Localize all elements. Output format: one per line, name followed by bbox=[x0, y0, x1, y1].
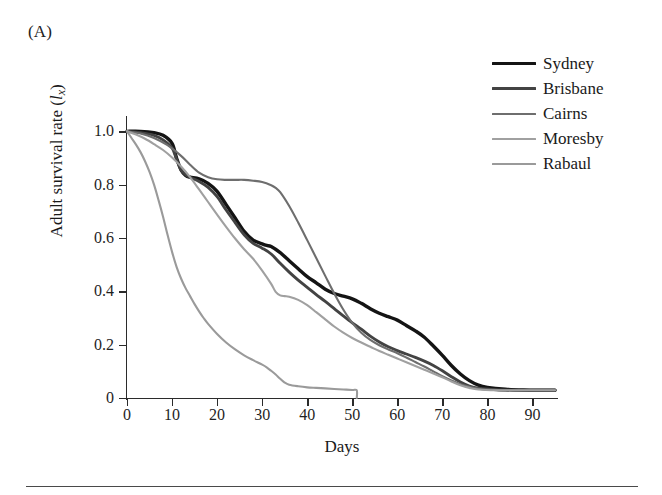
x-tick-label: 20 bbox=[209, 406, 225, 424]
legend-label: Rabaul bbox=[543, 155, 591, 172]
legend-item-rabaul[interactable]: Rabaul bbox=[492, 152, 603, 175]
x-tick-mark bbox=[307, 399, 308, 406]
y-tick-mark bbox=[119, 345, 126, 346]
y-tick-mark bbox=[119, 291, 126, 292]
y-tick-labels: 00.20.40.60.81.0 bbox=[62, 0, 114, 495]
y-axis-title-text: Adult survival rate ( bbox=[47, 100, 66, 237]
figure-panel-a: (A) 0102030405060708090 00.20.40.60.81.0… bbox=[0, 0, 662, 495]
x-tick-label: 10 bbox=[164, 406, 180, 424]
legend-swatch-sydney bbox=[492, 62, 536, 65]
legend-item-brisbane[interactable]: Brisbane bbox=[492, 77, 603, 100]
legend-swatch-rabaul bbox=[492, 163, 536, 165]
legend: SydneyBrisbaneCairnsMoresbyRabaul bbox=[492, 52, 603, 175]
series-line-moresby bbox=[127, 131, 555, 390]
x-tick-mark bbox=[532, 399, 533, 406]
y-axis-title-close: ) bbox=[47, 84, 66, 90]
x-axis-title: Days bbox=[126, 437, 558, 457]
series-line-brisbane bbox=[127, 131, 555, 390]
curves-svg bbox=[127, 118, 555, 398]
x-tick-label: 80 bbox=[479, 406, 495, 424]
series-line-sydney bbox=[127, 131, 555, 390]
y-tick-mark bbox=[119, 398, 126, 399]
y-axis-subscript: x bbox=[54, 90, 68, 95]
y-tick-label: 0.2 bbox=[94, 336, 114, 354]
y-tick-label: 1.0 bbox=[94, 122, 114, 140]
legend-label: Sydney bbox=[543, 55, 594, 72]
x-tick-mark bbox=[352, 399, 353, 406]
y-tick-label: 0.6 bbox=[94, 229, 114, 247]
x-tick-label: 0 bbox=[123, 406, 131, 424]
panel-label: (A) bbox=[28, 22, 52, 42]
legend-label: Brisbane bbox=[543, 80, 603, 97]
y-axis-title: Adult survival rate (lx) bbox=[47, 41, 69, 281]
y-tick-label: 0 bbox=[106, 389, 114, 407]
x-tick-label: 90 bbox=[524, 406, 540, 424]
y-tick-label: 0.8 bbox=[94, 176, 114, 194]
y-axis-symbol: l bbox=[47, 95, 66, 100]
legend-item-sydney[interactable]: Sydney bbox=[492, 52, 603, 75]
legend-swatch-moresby bbox=[492, 138, 536, 140]
x-tick-mark bbox=[172, 399, 173, 406]
legend-swatch-cairns bbox=[492, 113, 536, 115]
series-line-cairns bbox=[127, 131, 555, 390]
x-tick-label: 70 bbox=[434, 406, 450, 424]
x-tick-mark bbox=[127, 399, 128, 406]
series-line-rabaul bbox=[127, 131, 357, 398]
plot-area bbox=[127, 118, 555, 398]
y-tick-mark bbox=[119, 185, 126, 186]
legend-label: Cairns bbox=[543, 105, 587, 122]
x-tick-label: 50 bbox=[344, 406, 360, 424]
legend-label: Moresby bbox=[543, 130, 603, 147]
x-axis-line bbox=[126, 398, 558, 399]
legend-item-cairns[interactable]: Cairns bbox=[492, 102, 603, 125]
x-tick-mark bbox=[262, 399, 263, 406]
x-tick-mark bbox=[217, 399, 218, 406]
y-tick-label: 0.4 bbox=[94, 282, 114, 300]
x-tick-label: 30 bbox=[254, 406, 270, 424]
bottom-rule bbox=[26, 486, 638, 487]
x-tick-mark bbox=[397, 399, 398, 406]
x-tick-mark bbox=[442, 399, 443, 406]
legend-item-moresby[interactable]: Moresby bbox=[492, 127, 603, 150]
legend-swatch-brisbane bbox=[492, 87, 536, 90]
x-tick-mark bbox=[487, 399, 488, 406]
y-tick-mark bbox=[119, 131, 126, 132]
y-tick-mark bbox=[119, 238, 126, 239]
x-tick-label: 60 bbox=[389, 406, 405, 424]
x-tick-label: 40 bbox=[299, 406, 315, 424]
